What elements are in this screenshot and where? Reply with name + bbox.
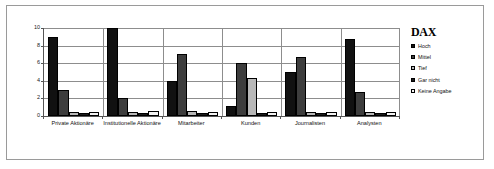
bar-group — [281, 28, 340, 116]
bar — [326, 112, 336, 116]
x-tick-mark — [280, 116, 281, 119]
y-tick-label: 2 — [37, 96, 40, 102]
x-tick-mark — [162, 116, 163, 119]
bar — [58, 90, 68, 116]
legend-label: Tief — [418, 65, 427, 71]
bar-group — [222, 28, 281, 116]
bar — [79, 113, 89, 116]
x-tick-mark — [340, 116, 341, 119]
bar — [285, 72, 295, 116]
legend-items: HochMittelTiefGar nichtKeine Angabe — [411, 43, 485, 94]
y-tick-label: 8 — [37, 43, 40, 49]
bar — [69, 112, 79, 116]
legend-swatch — [411, 66, 415, 70]
chart-legend: DAX HochMittelTiefGar nichtKeine Angabe — [411, 26, 485, 99]
bar — [128, 112, 138, 116]
legend-item[interactable]: Tief — [411, 65, 485, 71]
bar-group — [44, 28, 103, 116]
legend-item[interactable]: Hoch — [411, 43, 485, 49]
legend-label: Mittel — [418, 54, 431, 60]
y-tick-label: 6 — [37, 60, 40, 66]
x-tick-mark — [102, 116, 103, 119]
bar — [306, 112, 316, 116]
legend-swatch — [411, 44, 415, 48]
bar — [48, 37, 58, 116]
figure-frame: 0246810 Private AktionäreInstitutionelle… — [6, 5, 484, 160]
x-axis-label: Analysten — [334, 120, 405, 127]
legend-title: DAX — [411, 26, 485, 38]
x-tick-mark — [399, 116, 400, 119]
bar — [375, 113, 385, 116]
bar — [257, 113, 267, 116]
bar — [267, 112, 277, 116]
legend-item[interactable]: Keine Angabe — [411, 88, 485, 94]
x-tick-mark — [221, 116, 222, 119]
bar — [167, 81, 177, 116]
bar — [138, 113, 148, 116]
bar — [386, 112, 396, 116]
bar — [208, 112, 218, 116]
bar-group — [341, 28, 400, 116]
bar — [148, 111, 158, 116]
y-tick-label: 0 — [37, 113, 40, 119]
bar — [107, 28, 117, 116]
bar — [118, 98, 128, 116]
bar — [355, 92, 365, 116]
bar — [345, 39, 355, 116]
bar — [236, 63, 246, 116]
legend-swatch — [411, 78, 415, 82]
bar-group — [103, 28, 162, 116]
bar — [187, 111, 197, 116]
legend-swatch — [411, 89, 415, 93]
bar — [177, 54, 187, 116]
chart-screenshot: 0246810 Private AktionäreInstitutionelle… — [0, 0, 494, 169]
bar — [365, 112, 375, 116]
bar-group — [163, 28, 222, 116]
x-tick-mark — [43, 116, 44, 119]
bar — [247, 78, 257, 116]
plot-area: 0246810 — [43, 28, 400, 117]
bar — [89, 112, 99, 116]
legend-label: Hoch — [418, 43, 431, 49]
legend-label: Gar nicht — [418, 77, 440, 83]
y-tick-label: 10 — [34, 25, 40, 31]
y-tick-label: 4 — [37, 78, 40, 84]
legend-item[interactable]: Gar nicht — [411, 77, 485, 83]
bar — [296, 57, 306, 116]
legend-label: Keine Angabe — [418, 88, 452, 94]
legend-swatch — [411, 55, 415, 59]
bar — [316, 113, 326, 116]
bar — [197, 113, 207, 116]
bar — [226, 106, 236, 116]
legend-item[interactable]: Mittel — [411, 54, 485, 60]
